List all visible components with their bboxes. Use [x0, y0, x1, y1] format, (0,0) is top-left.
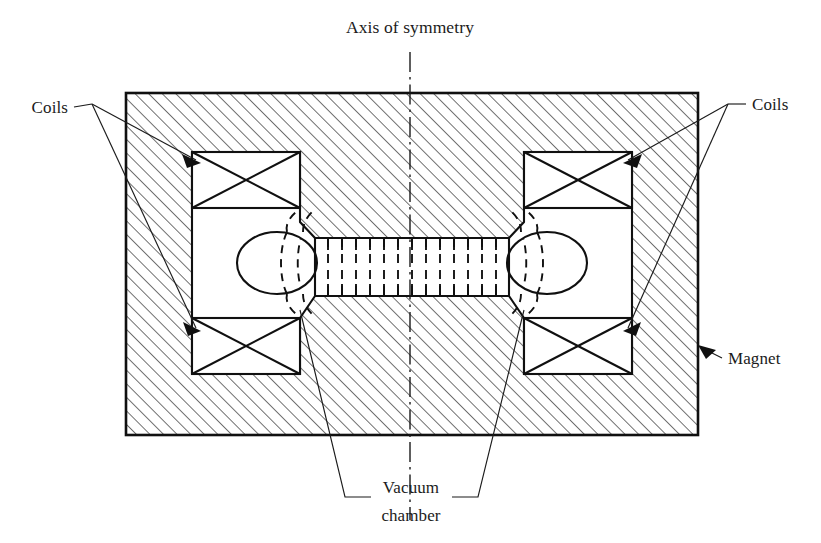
coil-bottom-left[interactable] [192, 318, 300, 374]
coil-top-left[interactable] [192, 152, 300, 208]
vacuum-chamber-label-line1: Vacuum [383, 478, 439, 497]
coils-left-label: Coils [32, 98, 68, 117]
magnet-label: Magnet [728, 349, 781, 368]
coil-top-right[interactable] [524, 152, 632, 208]
coils-left-label-tick [74, 104, 92, 107]
figure-root: Axis of symmetry Coils Coils Magnet Vacu… [0, 0, 821, 543]
vacuum-chamber-label-line2: chamber [381, 506, 440, 525]
magnet-arrowhead [698, 345, 716, 359]
coil-bottom-right[interactable] [524, 318, 632, 374]
magnet-cross-section-diagram: Axis of symmetry Coils Coils Magnet Vacu… [0, 0, 821, 543]
coils-right-label: Coils [752, 95, 788, 114]
axis-of-symmetry-label: Axis of symmetry [346, 17, 474, 37]
magnet-leader [698, 345, 722, 359]
